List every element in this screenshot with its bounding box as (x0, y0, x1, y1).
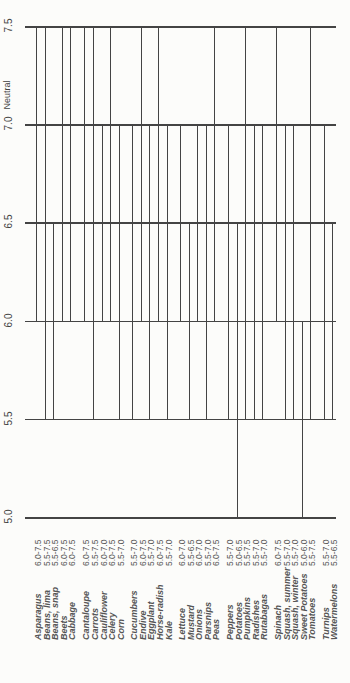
vegetable-label: Peas (211, 619, 221, 640)
range-bar (276, 26, 277, 321)
range-bar (332, 222, 333, 418)
range-label: 5.5-7.0 (164, 540, 174, 566)
range-bar (245, 26, 246, 419)
range-label: 6.0-7.5 (67, 540, 77, 566)
vegetable-label: Corn (116, 619, 126, 640)
range-bar (158, 26, 159, 321)
vegetable-label: Rutabagas (259, 594, 269, 640)
axis-tick-label: 5.5 (3, 411, 14, 425)
axis-tick-label: 6.5 (3, 215, 14, 229)
vegetable-label: Kale (164, 621, 174, 640)
range-bar (262, 124, 263, 419)
range-bar (132, 124, 133, 419)
range-bar (93, 26, 94, 419)
axis-tick-label: 7.0 (3, 117, 14, 131)
range-bar (197, 124, 198, 320)
range-bar (70, 26, 71, 321)
range-bar (228, 124, 229, 419)
range-label: 6.0-7.5 (211, 540, 221, 566)
neutral-annotation: Neutral (2, 81, 12, 110)
range-bar (254, 124, 255, 419)
axis-tick-label: 5.0 (3, 510, 14, 524)
ph-range-chart: 5.05.56.06.57.07.5Neutral6.0-7.5Asparagu… (0, 0, 350, 683)
range-bar (310, 26, 311, 419)
vegetable-label: Cabbage (67, 602, 77, 640)
axis-tick-label: 7.5 (3, 19, 14, 33)
range-label: 5.5-7.0 (259, 540, 269, 566)
gridline-6-0 (25, 321, 336, 323)
range-bar (189, 222, 190, 418)
range-label: 5.5-7.5 (307, 540, 317, 566)
axis-tick-label: 6.0 (3, 313, 14, 327)
range-label: 5.5-7.0 (116, 540, 126, 566)
range-bar (62, 26, 63, 321)
range-bar (110, 26, 111, 321)
gridline-7-5 (25, 26, 336, 28)
range-label: 5.5-6.5 (329, 540, 339, 566)
range-bar (285, 124, 286, 419)
range-bar (102, 124, 103, 320)
range-bar (167, 124, 168, 419)
range-bar (45, 26, 46, 419)
range-bar (84, 26, 85, 321)
range-bar (149, 124, 150, 419)
range-bar (36, 26, 37, 321)
vegetable-label: Tomatoes (307, 598, 317, 640)
gridline-5-0 (25, 517, 336, 519)
range-bar (180, 124, 181, 320)
range-bar (324, 124, 325, 419)
range-bar (237, 222, 238, 517)
gridline-5-5 (25, 419, 336, 421)
range-bar (53, 222, 54, 418)
range-bar (141, 26, 142, 321)
vegetable-label: Watermelons (329, 584, 339, 640)
range-bar (206, 124, 207, 419)
range-bar (214, 26, 215, 321)
range-bar (119, 124, 120, 419)
range-bar (302, 321, 303, 517)
range-bar (293, 124, 294, 419)
